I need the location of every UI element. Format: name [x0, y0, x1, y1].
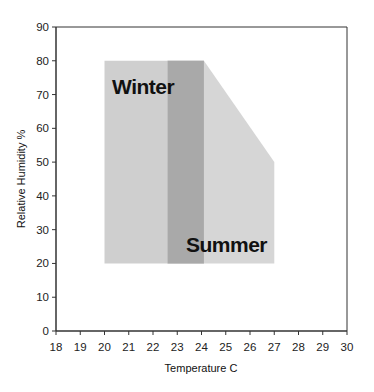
- x-tick-label: 27: [268, 341, 281, 353]
- x-axis-ticks: 18192021222324252627282930: [50, 331, 354, 353]
- y-tick-label: 50: [36, 156, 49, 168]
- y-tick-label: 90: [36, 21, 49, 33]
- chart-svg: 18192021222324252627282930 0102030405060…: [0, 0, 374, 392]
- y-tick-label: 80: [36, 55, 49, 67]
- y-tick-label: 70: [36, 89, 49, 101]
- x-tick-label: 24: [195, 341, 208, 353]
- x-tick-label: 29: [316, 341, 329, 353]
- y-tick-label: 40: [36, 190, 49, 202]
- x-tick-label: 19: [74, 341, 87, 353]
- y-tick-label: 30: [36, 224, 49, 236]
- y-tick-label: 0: [43, 325, 49, 337]
- winter-label: Winter: [112, 75, 174, 98]
- y-tick-label: 10: [36, 291, 49, 303]
- x-tick-label: 26: [244, 341, 257, 353]
- y-axis-ticks: 0102030405060708090: [36, 21, 56, 337]
- x-tick-label: 21: [122, 341, 135, 353]
- x-tick-label: 22: [147, 341, 160, 353]
- y-tick-label: 60: [36, 122, 49, 134]
- x-tick-label: 25: [219, 341, 232, 353]
- y-axis-title: Relative Humidity %: [15, 130, 27, 229]
- chart-container: 18192021222324252627282930 0102030405060…: [0, 0, 374, 392]
- y-tick-label: 20: [36, 257, 49, 269]
- x-tick-label: 18: [50, 341, 63, 353]
- x-axis-title: Temperature C: [165, 362, 238, 374]
- x-tick-label: 23: [171, 341, 184, 353]
- summer-label: Summer: [186, 233, 267, 256]
- x-tick-label: 30: [341, 341, 354, 353]
- x-tick-label: 28: [292, 341, 305, 353]
- x-tick-label: 20: [98, 341, 111, 353]
